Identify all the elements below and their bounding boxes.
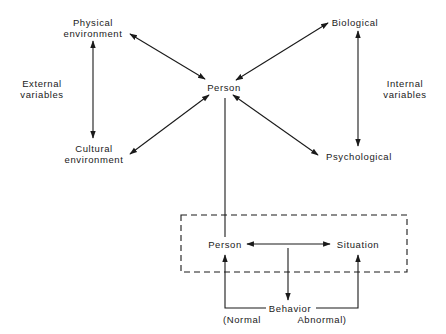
diagram-connectors: [0, 0, 446, 334]
label-normal: (Normal: [223, 314, 261, 325]
arrow-behavior-situation: [316, 255, 358, 308]
label-biological: Biological: [332, 17, 379, 28]
label-physical-environment: Physical environment: [64, 17, 123, 39]
arrow-biological-person: [236, 23, 328, 80]
cultural-line-1: Cultural: [65, 143, 124, 154]
arrow-behavior-person: [225, 255, 266, 308]
internal-line-1: Internal: [383, 78, 426, 89]
label-internal-variables: Internal variables: [383, 78, 426, 100]
label-external-variables: External variables: [20, 78, 63, 100]
internal-line-2: variables: [383, 89, 426, 100]
label-cultural-environment: Cultural environment: [65, 143, 124, 165]
physical-line-1: Physical: [64, 17, 123, 28]
label-abnormal: Abnormal): [297, 314, 346, 325]
physical-line-2: environment: [64, 28, 123, 39]
external-line-2: variables: [20, 89, 63, 100]
external-line-1: External: [20, 78, 63, 89]
arrow-physical-person: [130, 34, 205, 79]
arrow-cultural-person: [130, 95, 209, 154]
label-behavior: Behavior: [269, 303, 311, 314]
label-psychological: Psychological: [326, 151, 392, 162]
label-situation: Situation: [337, 239, 379, 250]
cultural-line-2: environment: [65, 154, 124, 165]
arrow-psychological-person: [233, 95, 318, 155]
label-person-top: Person: [207, 82, 241, 93]
label-person-bottom: Person: [206, 239, 244, 250]
